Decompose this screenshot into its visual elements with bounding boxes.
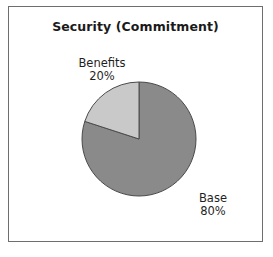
pie-label-base: Base 80% [161, 192, 265, 218]
pie-label-base-percent: 80% [161, 205, 265, 218]
chart-panel: Security (Commitment) Benefits 20% Base … [8, 6, 263, 242]
pie-label-benefits: Benefits 20% [47, 57, 157, 83]
pie-label-benefits-percent: 20% [47, 70, 157, 83]
